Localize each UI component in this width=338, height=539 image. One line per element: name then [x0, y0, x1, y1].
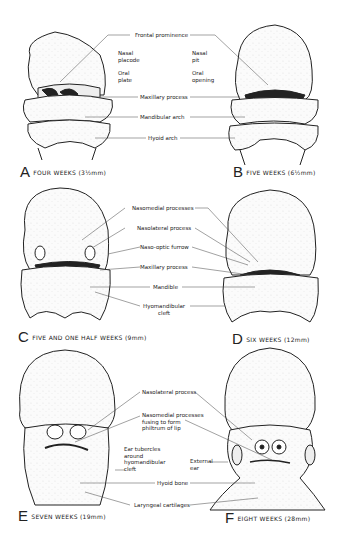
caption-panel-f: FEIGHT WEEKS (28mm)	[225, 509, 310, 526]
label-hyomandibular-cleft: Hyomandibularcleft	[143, 303, 185, 316]
caption-panel-a: AFOUR WEEKS (3½mm)	[20, 163, 106, 180]
label-external-ear: Externalear	[190, 458, 213, 471]
panel-f-embryo	[210, 348, 325, 510]
panel-b-embryo	[229, 25, 318, 165]
caption-panel-e: ESEVEN WEEKS (19mm)	[18, 507, 106, 524]
label-nasal-placode: Nasalplacode	[118, 50, 140, 63]
label-nasal-pit: Nasalpit	[192, 50, 207, 63]
label-mandible: Mandible	[153, 284, 178, 291]
label-nasomedial-fusing: Nasomedial processesfusing to formphiltr…	[142, 412, 204, 432]
caption-panel-b: BFIVE WEEKS (6½mm)	[233, 163, 316, 180]
label-nasolateral-process-ef: Nasolateral process	[142, 389, 196, 396]
label-ear-tubercles: Ear tuberclesaroundhyomandibularcleft	[124, 446, 165, 472]
panel-e-embryo	[20, 350, 115, 505]
label-oral-plate: Oralplate	[118, 70, 132, 83]
label-naso-optic-furrow: Naso-optic furrow	[140, 244, 189, 251]
caption-panel-c: CFIVE AND ONE HALF WEEKS (9mm)	[18, 328, 147, 345]
label-hyoid-bone: Hyoid bone	[157, 480, 188, 487]
label-oral-opening: Oralopening	[192, 70, 214, 83]
panel-d-embryo	[223, 190, 318, 322]
label-laryngeal-cartilages: Laryngeal cartilages	[134, 502, 190, 509]
label-nasomedial-processes: Nasomedial processes	[132, 205, 194, 212]
label-frontal-prominence: Frontal prominence	[135, 32, 188, 39]
panel-a-embryo	[23, 32, 112, 160]
panel-c-embryo	[21, 188, 110, 320]
label-maxillary-process-ab: Maxillary process	[140, 94, 188, 101]
label-maxillary-process-cd: Maxillary process	[140, 264, 188, 271]
caption-panel-d: DSIX WEEKS (12mm)	[232, 330, 310, 347]
embryo-face-development-figure: AFOUR WEEKS (3½mm) BFIVE WEEKS (6½mm) CF…	[0, 0, 338, 539]
label-nasolateral-process-cd: Nasolateral process	[137, 225, 191, 232]
label-mandibular-arch: Mandibular arch	[140, 114, 185, 121]
label-hyoid-arch: Hyoid arch	[148, 135, 178, 142]
